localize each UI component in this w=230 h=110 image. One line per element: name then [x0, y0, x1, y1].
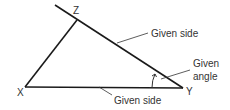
given-side-xy-label: Given side: [114, 95, 162, 106]
leader-side-zy: [117, 33, 148, 43]
vertex-y-label: Y: [186, 86, 193, 97]
side-zy-line: [55, 5, 183, 88]
given-angle-label-line1: Given: [193, 58, 219, 69]
leader-angle: [161, 70, 190, 79]
given-side-zy-label: Given side: [151, 28, 199, 39]
given-angle-label-line2: angle: [193, 71, 218, 82]
triangle-diagram: Z X Y Given side Given side Given angle: [0, 0, 230, 110]
vertex-z-label: Z: [73, 5, 79, 16]
side-xy-line: [25, 87, 183, 88]
side-xz-line: [25, 20, 77, 87]
vertex-x-label: X: [17, 87, 24, 98]
